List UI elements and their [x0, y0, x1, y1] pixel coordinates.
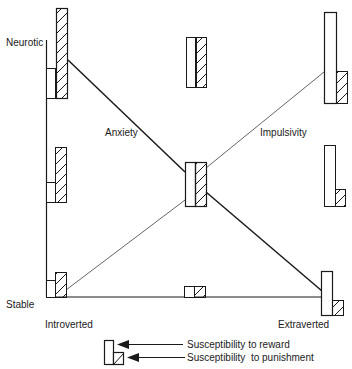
reward-bar: [325, 146, 336, 207]
punishment-bar: [56, 273, 67, 298]
y-axis-top-label: Neurotic: [6, 38, 43, 48]
bar-pair-middle-left: [47, 148, 67, 203]
punishment-bar: [333, 301, 344, 316]
reward-bar: [325, 13, 337, 104]
bar-pair-middle-right: [325, 146, 346, 207]
reward-bar: [185, 287, 195, 298]
bar-pair-center: [186, 163, 207, 207]
punishment-bar: [197, 38, 207, 88]
reward-bar: [186, 163, 196, 207]
diagram-canvas: [0, 0, 352, 369]
legend: [105, 340, 186, 365]
reward-bar: [187, 38, 196, 88]
punishment-bar: [337, 72, 348, 104]
legend-reward-swatch: [105, 341, 114, 365]
arrow-reward-icon: [117, 340, 183, 349]
reward-bar: [47, 69, 56, 99]
legend-reward-label: Susceptibility to reward: [187, 340, 290, 350]
reward-bar: [47, 183, 56, 203]
punishment-bar: [195, 287, 206, 298]
arrow-punishment-icon: [127, 353, 185, 362]
impulsivity-label: Impulsivity: [260, 128, 307, 138]
x-axis-right-label: Extraverted: [278, 320, 329, 330]
bar-pair-top-right: [325, 13, 348, 104]
punishment-bar: [57, 9, 68, 99]
x-axis-left-label: Introverted: [45, 320, 93, 330]
bar-pair-top-left: [47, 9, 68, 99]
reward-bar: [47, 281, 56, 298]
bar-pair-bottom-center: [185, 287, 206, 298]
reward-bar: [322, 272, 333, 316]
legend-punishment-label: Susceptibility to punishment: [187, 353, 314, 363]
bar-pair-bottom-left: [47, 273, 67, 298]
anxiety-label: Anxiety: [105, 128, 138, 138]
bar-pair-top-center: [187, 38, 207, 88]
bar-pair-bottom-right: [322, 272, 344, 316]
punishment-bar: [336, 190, 346, 207]
y-axis-bottom-label: Stable: [6, 300, 34, 310]
punishment-bar: [196, 163, 207, 207]
punishment-bar: [56, 148, 67, 203]
